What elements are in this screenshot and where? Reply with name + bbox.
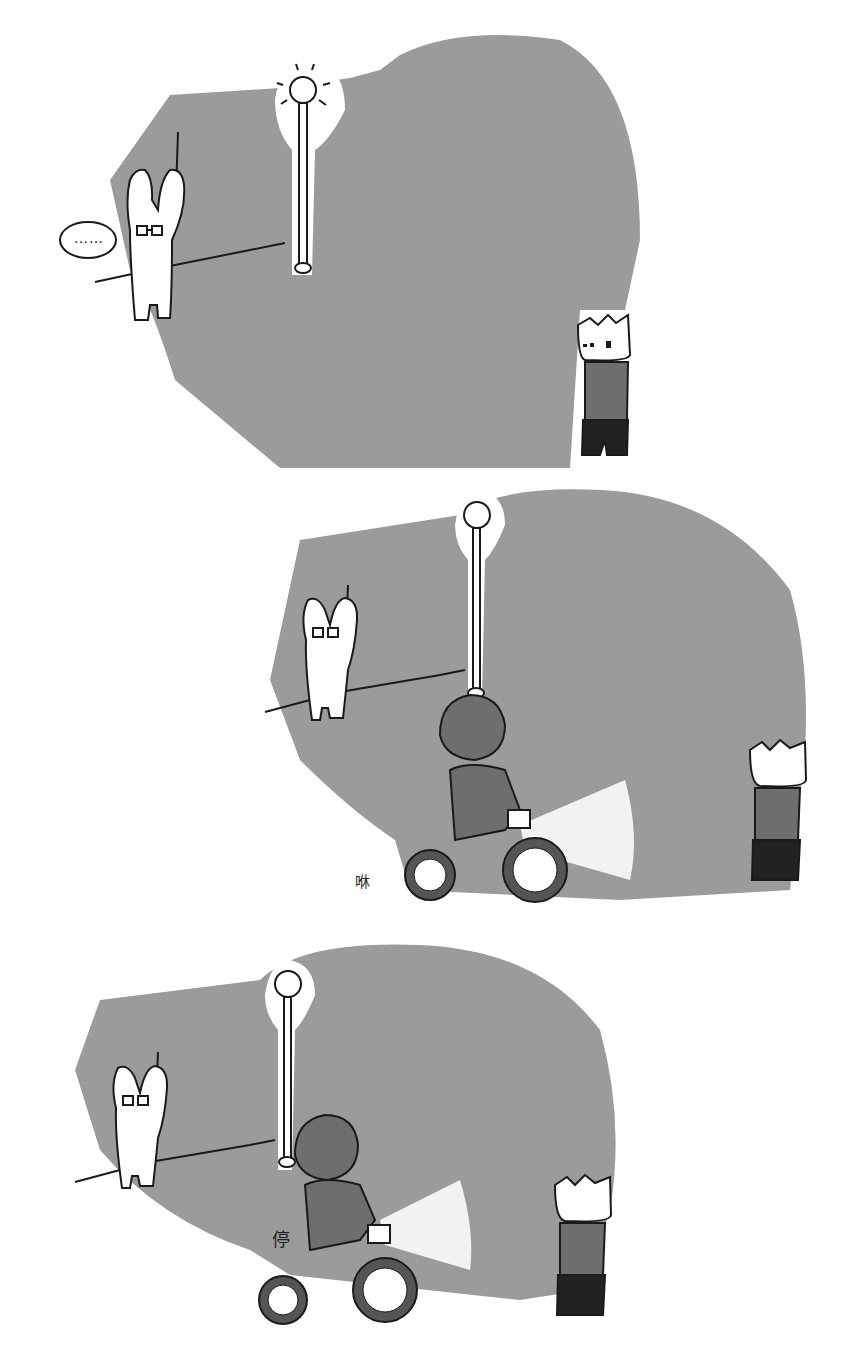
comic-panel-2: 咻 — [0, 480, 866, 920]
night-background — [110, 35, 640, 468]
spiky-boy-character — [555, 1175, 611, 1315]
spiky-boy-character — [750, 740, 806, 880]
spiky-boy-character — [578, 315, 630, 455]
panel-2-art — [0, 480, 866, 920]
comic-panel-3: 停 — [0, 920, 866, 1359]
sound-effect-stop: 停 — [272, 1225, 290, 1251]
comic-panel-1: …… — [0, 0, 866, 480]
speech-bubble-text: …… — [74, 230, 104, 246]
panel-3-art — [0, 920, 866, 1359]
panel-1-art — [0, 0, 866, 480]
sound-effect-whoosh: 咻 — [355, 870, 370, 891]
